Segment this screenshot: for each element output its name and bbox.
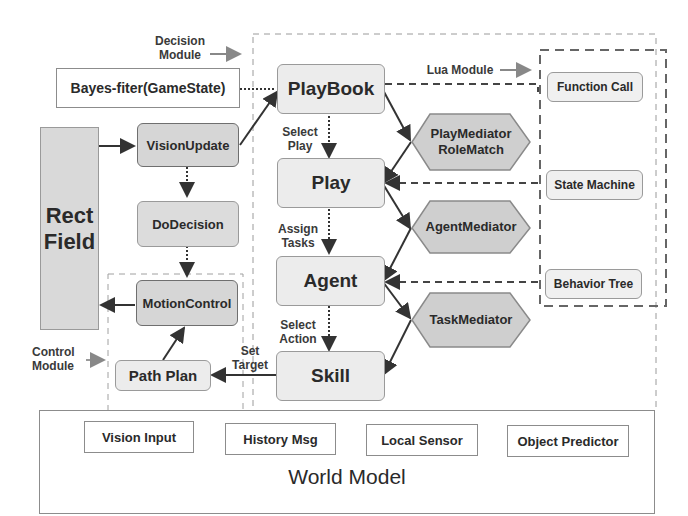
vision-input-item[interactable]: Vision Input: [84, 421, 194, 453]
node-label: PlayMediator: [431, 126, 512, 142]
history-msg-item[interactable]: History Msg: [225, 423, 336, 455]
task-mediator-node[interactable]: TaskMediator: [412, 293, 530, 347]
behavior-tree-node[interactable]: Behavior Tree: [545, 269, 642, 299]
node-label: RoleMatch: [438, 142, 504, 158]
play-mediator-node[interactable]: PlayMediator RoleMatch: [412, 114, 530, 170]
function-call-node[interactable]: Function Call: [547, 72, 643, 102]
world-model-container: Vision Input History Msg Local Sensor Ob…: [39, 410, 655, 514]
local-sensor-item[interactable]: Local Sensor: [366, 424, 478, 456]
world-model-title: World Model: [40, 465, 654, 489]
object-predictor-item[interactable]: Object Predictor: [507, 425, 629, 457]
agent-mediator-node[interactable]: AgentMediator: [412, 201, 530, 253]
state-machine-node[interactable]: State Machine: [546, 170, 643, 200]
